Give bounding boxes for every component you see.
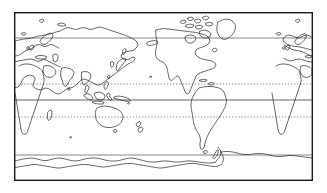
world-map-figure xyxy=(0,0,327,193)
world-map-svg xyxy=(0,0,327,193)
